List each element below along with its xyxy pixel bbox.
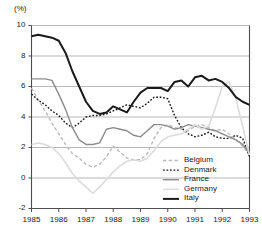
series-line-belgium <box>32 88 250 167</box>
y-axis-tick-label: -2 <box>6 203 26 212</box>
legend-label-italy: Italy <box>184 193 199 202</box>
x-axis-tick-label: 1991 <box>180 215 210 224</box>
y-axis-tick-label: 6 <box>6 81 26 90</box>
x-axis-tick-label: 1986 <box>44 215 74 224</box>
y-axis-tick-label: 2 <box>6 142 26 151</box>
legend-label-denmark: Denmark <box>184 165 216 174</box>
inflation-line-chart: (%) 1086420-2 19851986198719881989199019… <box>0 0 261 239</box>
y-axis-tick-label: 10 <box>6 20 26 29</box>
gridlines <box>32 26 250 209</box>
x-axis-tick-label: 1989 <box>126 215 156 224</box>
legend-swatches <box>163 161 179 199</box>
y-axis-tick-label: 8 <box>6 51 26 60</box>
x-axis-tick-label: 1985 <box>17 215 47 224</box>
x-axis-tick-label: 1990 <box>153 215 183 224</box>
x-axis-tick-label: 1992 <box>207 215 237 224</box>
x-axis-tick-label: 1988 <box>98 215 128 224</box>
legend-label-belgium: Belgium <box>184 155 213 164</box>
chart-plot-area <box>0 0 261 239</box>
legend-label-france: France <box>184 174 209 183</box>
y-axis-tick-label: 4 <box>6 112 26 121</box>
x-axis-tick-label: 1987 <box>71 215 101 224</box>
x-axis-tick-label: 1993 <box>235 215 262 224</box>
legend-label-germany: Germany <box>184 184 217 193</box>
data-series <box>32 35 250 194</box>
y-axis-tick-label: 0 <box>6 173 26 182</box>
